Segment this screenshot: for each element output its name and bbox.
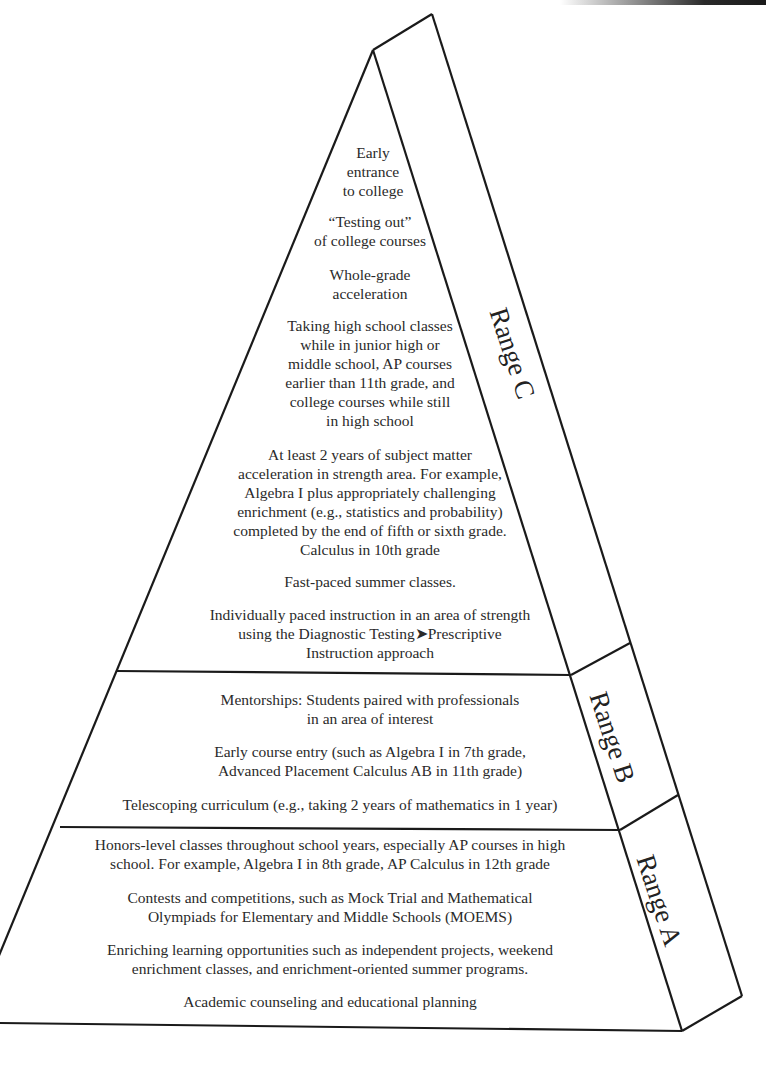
tier-c-item: “Testing out” of college courses <box>260 212 480 250</box>
tier-c-item: Whole-grade acceleration <box>260 265 480 303</box>
side-face-top-edge <box>373 14 432 50</box>
text-line: Algebra I plus appropriately challenging <box>170 483 570 502</box>
tier-b-item: Telescoping curriculum (e.g., taking 2 y… <box>60 795 620 814</box>
text-line: using the Diagnostic Testing➤Prescriptiv… <box>110 624 630 643</box>
front-face-base <box>0 1023 682 1031</box>
text-line: Early course entry (such as Algebra I in… <box>100 742 640 761</box>
text-line: Academic counseling and educational plan… <box>30 992 630 1011</box>
text-line: Whole-grade <box>260 265 480 284</box>
text-line: while in junior high or <box>240 335 500 354</box>
text-line: acceleration <box>260 284 480 303</box>
divider-c-b <box>117 671 571 675</box>
text-line: Taking high school classes <box>240 316 500 335</box>
text-line: school. For example, Algebra I in 8th gr… <box>30 854 630 873</box>
tier-c-item: Individually paced instruction in an are… <box>110 605 630 662</box>
divider-b-a <box>60 827 620 830</box>
text-line: in an area of interest <box>100 709 640 728</box>
text-line: “Testing out” <box>260 212 480 231</box>
text-line: Advanced Placement Calculus AB in 11th g… <box>100 761 640 780</box>
tier-b-item: Mentorships: Students paired with profes… <box>100 690 640 728</box>
text-line: earlier than 11th grade, and <box>240 373 500 392</box>
tier-b-item: Early course entry (such as Algebra I in… <box>100 742 640 780</box>
tier-c-item: At least 2 years of subject matter accel… <box>170 445 570 559</box>
text-line: of college courses <box>260 231 480 250</box>
text-line: college courses while still <box>240 392 500 411</box>
tier-a-item: Academic counseling and educational plan… <box>30 992 630 1011</box>
text-line: to college <box>273 181 473 200</box>
text-line: Instruction approach <box>110 643 630 662</box>
text-line: acceleration in strength area. For examp… <box>170 464 570 483</box>
side-divider-b-a <box>620 795 678 830</box>
tier-a-item: Contests and competitions, such as Mock … <box>30 888 630 926</box>
text-line: At least 2 years of subject matter <box>170 445 570 464</box>
text-line: Telescoping curriculum (e.g., taking 2 y… <box>60 795 620 814</box>
text-line: middle school, AP courses <box>240 354 500 373</box>
tier-c-item: Early entrance to college <box>273 143 473 200</box>
text-line: Individually paced instruction in an are… <box>110 605 630 624</box>
text-line: enrichment classes, and enrichment-orien… <box>30 959 630 978</box>
text-line: Olympiads for Elementary and Middle Scho… <box>30 907 630 926</box>
text-line: enrichment (e.g., statistics and probabi… <box>170 502 570 521</box>
text-line: Contests and competitions, such as Mock … <box>30 888 630 907</box>
text-line: in high school <box>240 411 500 430</box>
tier-a-item: Honors-level classes throughout school y… <box>30 835 630 873</box>
text-line: entrance <box>273 162 473 181</box>
tier-c-item: Taking high school classes while in juni… <box>240 316 500 430</box>
text-line: Honors-level classes throughout school y… <box>30 835 630 854</box>
text-line: Calculus in 10th grade <box>170 540 570 559</box>
text-line: Enriching learning opportunities such as… <box>30 940 630 959</box>
side-face-bottom-edge <box>682 996 742 1031</box>
text-line: Mentorships: Students paired with profes… <box>100 690 640 709</box>
text-line: Fast-paced summer classes. <box>170 572 570 591</box>
tier-c-item: Fast-paced summer classes. <box>170 572 570 591</box>
tier-a-item: Enriching learning opportunities such as… <box>30 940 630 978</box>
text-line: completed by the end of fifth or sixth g… <box>170 521 570 540</box>
text-line: Early <box>273 143 473 162</box>
